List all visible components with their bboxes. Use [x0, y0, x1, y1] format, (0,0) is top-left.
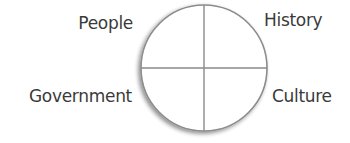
quadrant-diagram: People Government History Culture	[0, 0, 350, 143]
label-culture: Culture	[272, 88, 332, 105]
label-people: People	[78, 15, 133, 32]
label-government: Government	[29, 88, 132, 105]
label-history: History	[264, 12, 322, 29]
